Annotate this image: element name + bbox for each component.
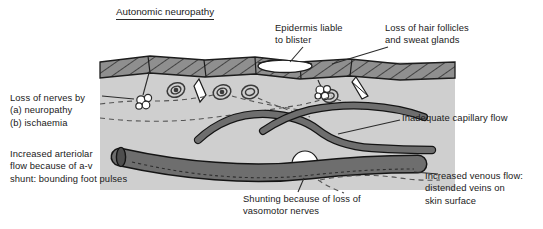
label-loss-of-follicles: Loss of hair follicles and sweat glands	[385, 22, 469, 47]
label-loss-of-nerves: Loss of nerves by (a) neuropathy (b) isc…	[10, 92, 85, 129]
label-epidermis-blister: Epidermis liable to blister	[275, 22, 343, 47]
label-increased-venous-flow: Increased venous flow: distended veins o…	[425, 170, 523, 207]
label-shunting-vasomotor: Shunting because of loss of vasomotor ne…	[243, 193, 361, 218]
label-inadequate-capillary-flow: Inadequate capillary flow	[402, 112, 508, 124]
label-increased-arteriolar-flow: Increased arteriolar flow because of a-v…	[10, 148, 127, 185]
autonomic-neuropathy-figure: Autonomic neuropathy	[0, 0, 543, 229]
